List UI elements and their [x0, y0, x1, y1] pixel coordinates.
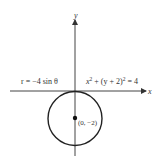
x-axis-label: x: [147, 87, 152, 96]
polar-equation: r = −4 sin θ: [21, 77, 58, 86]
y-axis-label: y: [73, 11, 78, 20]
center-point: [73, 116, 77, 120]
polar-circle-diagram: y x r = −4 sin θ x2 + (y + 2)2 = 4 (0, −…: [0, 0, 158, 164]
cartesian-equation: x2 + (y + 2)2 = 4: [85, 76, 138, 86]
center-label: (0, −2): [78, 119, 98, 127]
